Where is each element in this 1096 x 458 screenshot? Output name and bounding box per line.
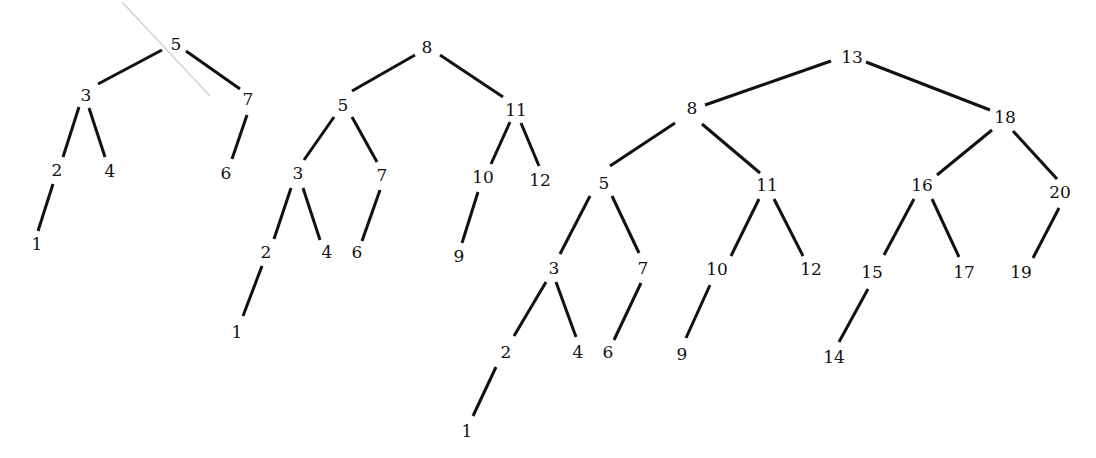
tree-node-1: 1	[32, 234, 43, 254]
tree-node-3: 3	[81, 85, 92, 105]
tree-node-15: 15	[861, 262, 883, 282]
tree-node-4: 4	[573, 342, 584, 362]
tree-edge	[362, 190, 380, 241]
tree-node-5: 5	[171, 34, 182, 54]
tree-node-11: 11	[756, 175, 778, 195]
tree-node-8: 8	[422, 37, 433, 57]
tree-edge	[1013, 131, 1057, 179]
tree-edge	[774, 199, 803, 256]
tree-edge	[243, 266, 262, 316]
tree-edge	[38, 184, 53, 231]
tree-edge	[884, 199, 914, 255]
tree-diagram: 5372461851137101224691138185111620371012…	[0, 0, 1096, 458]
tree-node-6: 6	[221, 163, 232, 183]
tree-node-2: 2	[501, 342, 512, 362]
tree-node-9: 9	[454, 246, 465, 266]
tree-edge	[98, 50, 162, 84]
tree-node-2: 2	[261, 242, 272, 262]
tree-height-3: 5372461	[32, 34, 254, 254]
diagram-canvas: 5372461851137101224691138185111620371012…	[0, 0, 1096, 458]
tree-edge	[612, 196, 639, 253]
tree-edge	[89, 108, 105, 157]
tree-node-1: 1	[462, 421, 473, 441]
tree-node-19: 19	[1010, 262, 1032, 282]
tree-node-3: 3	[549, 258, 560, 278]
tree-node-2: 2	[52, 160, 63, 180]
tree-edge	[304, 117, 334, 160]
tree-edge	[514, 282, 546, 336]
tree-node-1: 1	[232, 322, 243, 342]
tree-node-17: 17	[953, 262, 975, 282]
tree-node-12: 12	[800, 259, 822, 279]
tree-edge	[731, 199, 759, 256]
tree-node-6: 6	[603, 342, 614, 362]
tree-edge	[232, 115, 247, 159]
tree-edge	[839, 289, 868, 342]
tree-edge	[1033, 208, 1059, 258]
tree-edge	[462, 192, 478, 243]
tree-edge	[556, 282, 576, 337]
tree-edge	[186, 51, 240, 89]
tree-edge	[303, 188, 320, 240]
tree-node-8: 8	[687, 98, 698, 118]
tree-node-20: 20	[1049, 182, 1071, 202]
tree-node-13: 13	[841, 47, 863, 67]
tree-node-14: 14	[823, 347, 845, 367]
tree-node-7: 7	[243, 89, 254, 109]
tree-node-7: 7	[638, 258, 649, 278]
tree-node-9: 9	[677, 344, 688, 364]
tree-node-7: 7	[377, 165, 388, 185]
tree-edge	[937, 130, 992, 175]
tree-node-3: 3	[293, 163, 304, 183]
tree-node-4: 4	[105, 161, 116, 181]
tree-node-12: 12	[529, 170, 551, 190]
tree-edge	[491, 122, 510, 164]
tree-edge	[440, 55, 503, 97]
tree-edge	[521, 123, 539, 166]
tree-node-5: 5	[599, 173, 610, 193]
tree-edge	[274, 188, 291, 239]
tree-edge	[705, 61, 831, 105]
tree-node-10: 10	[472, 167, 494, 187]
tree-node-10: 10	[706, 259, 728, 279]
tree-edge	[932, 199, 959, 257]
tree-edge	[560, 196, 590, 254]
tree-node-18: 18	[994, 107, 1016, 127]
tree-edge	[702, 124, 760, 173]
tree-node-4: 4	[322, 242, 333, 262]
tree-edge	[473, 367, 496, 416]
tree-height-4: 851137101224691	[232, 37, 551, 342]
tree-node-6: 6	[352, 242, 363, 262]
tree-edge	[352, 117, 377, 162]
scan-artifact-line	[122, 2, 210, 96]
tree-edge	[614, 283, 641, 340]
tree-node-5: 5	[338, 95, 349, 115]
tree-node-11: 11	[505, 100, 527, 120]
tree-node-16: 16	[911, 175, 933, 195]
tree-edge	[686, 285, 710, 338]
tree-height-5: 1381851116203710121517192469141	[462, 47, 1071, 441]
tree-edge	[866, 62, 990, 110]
tree-edge	[63, 107, 79, 157]
tree-edge	[610, 123, 675, 166]
tree-edge	[352, 55, 415, 91]
